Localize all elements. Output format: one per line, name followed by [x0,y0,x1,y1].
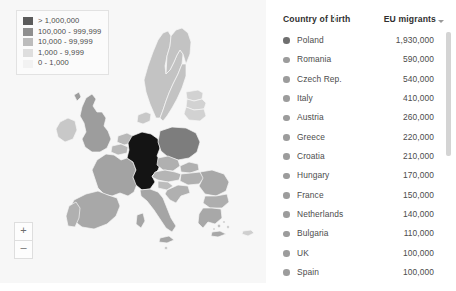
table-row[interactable]: Croatia 210,000 [266,147,456,166]
row-migrants: 110,000 [404,228,434,238]
row-migrants: 540,000 [403,74,434,84]
caret-down-icon[interactable] [438,20,444,23]
row-country: Bulgaria [297,228,329,238]
row-migrants: 1,930,000 [396,35,434,45]
zoom-in-button[interactable]: + [14,222,33,241]
row-migrants: 100,000 [403,248,434,258]
table-scrollbar-track[interactable] [446,31,451,283]
row-marker-dot [283,192,290,199]
row-marker-dot [283,269,290,276]
legend-swatch [23,49,33,57]
row-marker-dot [283,76,290,83]
legend-label: 100,000 - 999,999 [38,27,101,38]
row-marker-dot [283,115,290,122]
panel-bottom-strip [0,283,456,291]
row-marker-dot [283,231,290,238]
map-zoom-controls[interactable]: + – [14,222,31,259]
legend-item: 100,000 - 999,999 [23,27,101,38]
column-header-migrants[interactable]: EU migrants [384,14,436,24]
migration-map-dashboard: > 1,000,000 100,000 - 999,999 10,000 - 9… [0,0,456,291]
row-marker-dot [283,173,290,180]
row-migrants: 140,000 [403,209,434,219]
greece-island-dot-4 [213,228,215,230]
row-country: Spain [297,267,319,277]
legend-item: 10,000 - 99,999 [23,37,101,48]
legend-swatch [23,38,33,46]
legend-label: 0 - 1,000 [38,58,69,69]
legend-swatch [23,17,33,25]
row-marker-dot [283,153,290,160]
migrants-table-panel: Country of birth EU migrants Poland 1,93… [266,0,456,283]
row-migrants: 260,000 [403,112,434,122]
legend-label: > 1,000,000 [38,16,79,27]
row-marker-dot [283,211,290,218]
table-row[interactable]: Austria 260,000 [266,108,456,127]
country-malta [164,246,167,249]
row-marker-dot [283,134,290,141]
row-country: Czech Rep. [297,74,342,84]
row-marker-dot [283,37,290,44]
greece-island-dot-3 [227,226,229,228]
legend-item: > 1,000,000 [23,16,101,27]
row-country: Netherlands [297,209,343,219]
row-migrants: 150,000 [403,190,434,200]
row-migrants: 590,000 [403,54,434,64]
table-row[interactable]: Czech Rep. 540,000 [266,70,456,89]
row-country: Greece [297,132,325,142]
row-country: Romania [297,54,331,64]
greece-island-dot-1 [218,225,221,228]
legend-label: 1,000 - 9,999 [38,48,84,59]
row-migrants: 210,000 [403,151,434,161]
table-row[interactable]: Spain 100,000 [266,263,456,282]
table-header-row: Country of birth EU migrants [266,0,456,31]
header-column-divider [334,13,335,22]
row-migrants: 220,000 [403,132,434,142]
table-row[interactable]: UK 100,000 [266,244,456,263]
column-header-country[interactable]: Country of birth [283,14,350,24]
zoom-out-button[interactable]: – [14,241,33,259]
legend-swatch [23,28,33,36]
table-row[interactable]: Bulgaria 110,000 [266,224,456,243]
row-marker-dot [283,95,290,102]
row-country: Hungary [297,170,329,180]
row-country: France [297,190,324,200]
table-row[interactable]: Greece 220,000 [266,128,456,147]
row-migrants: 170,000 [403,170,434,180]
row-country: Austria [297,112,324,122]
greece-island-dot-2 [223,221,225,223]
table-row[interactable]: Hungary 170,000 [266,166,456,185]
table-body[interactable]: Poland 1,930,000 Romania 590,000 Czech R… [266,31,456,283]
row-marker-dot [283,250,290,257]
legend-swatch [23,60,33,68]
legend-label: 10,000 - 99,999 [38,37,93,48]
row-country: UK [297,248,309,258]
country-belgium [111,144,128,155]
table-row[interactable]: Italy 410,000 [266,89,456,108]
table-row[interactable]: Romania 590,000 [266,50,456,69]
table-row[interactable]: Poland 1,930,000 [266,31,456,50]
table-row[interactable]: France 150,000 [266,186,456,205]
row-migrants: 410,000 [403,93,434,103]
map-legend: > 1,000,000 100,000 - 999,999 10,000 - 9… [16,10,109,75]
map-panel[interactable]: > 1,000,000 100,000 - 999,999 10,000 - 9… [0,0,266,283]
legend-item: 0 - 1,000 [23,58,101,69]
row-country: Croatia [297,151,325,161]
row-migrants: 100,000 [403,267,434,277]
table-row[interactable]: Netherlands 140,000 [266,205,456,224]
row-country: Italy [297,93,313,103]
row-country: Poland [297,35,324,45]
legend-item: 1,000 - 9,999 [23,48,101,59]
table-scrollbar-thumb[interactable] [446,32,451,156]
row-marker-dot [283,57,290,64]
